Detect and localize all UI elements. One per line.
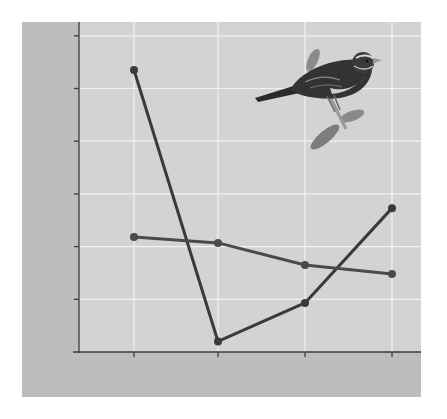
data-point [130, 233, 138, 241]
data-point [388, 204, 396, 212]
data-point [388, 270, 396, 278]
data-point [301, 261, 309, 269]
data-point [130, 66, 138, 74]
data-point [214, 337, 222, 345]
data-point [214, 239, 222, 247]
data-point [301, 299, 309, 307]
line-chart [0, 0, 447, 419]
